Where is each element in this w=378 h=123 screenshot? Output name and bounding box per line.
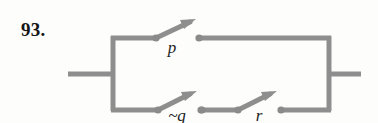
figure-container: 93. p [0, 0, 378, 123]
switch-r-input-node [198, 106, 205, 113]
switch-r-pivot-node [234, 106, 241, 113]
switch-p-pivot-node [152, 34, 159, 41]
switch-p[interactable]: p [152, 19, 202, 57]
switch-not-q[interactable]: ~q [154, 91, 204, 123]
switch-not-q-label: ~q [168, 106, 186, 123]
switch-p-contact-node [195, 34, 202, 41]
switch-r-contact-node [277, 106, 284, 113]
switch-p-label: p [167, 38, 177, 57]
switch-r-label: r [256, 106, 263, 123]
switch-r[interactable]: r [198, 91, 284, 123]
switching-circuit-diagram: p ~q r [0, 0, 378, 123]
switch-not-q-pivot-node [154, 106, 161, 113]
circuit-frame [68, 36, 361, 111]
